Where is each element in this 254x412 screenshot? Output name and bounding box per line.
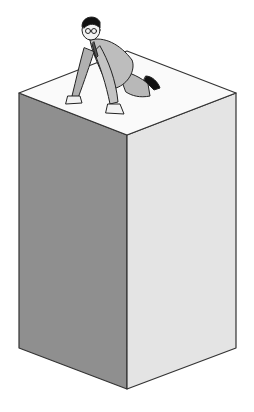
box-left-face [19,93,127,389]
box-right-face [127,93,236,389]
illustration [0,0,254,412]
left-hand [66,96,82,104]
tall-box [19,51,236,389]
